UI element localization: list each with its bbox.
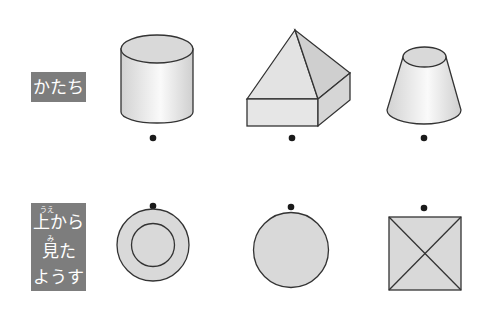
top-view-square-diagonals xyxy=(389,217,461,290)
top-view-dot-1 xyxy=(150,203,157,210)
top-view-concentric-circles xyxy=(117,209,189,281)
top-view-dot-3 xyxy=(421,205,428,212)
cylinder-shape xyxy=(121,35,193,123)
top-view-dot-2 xyxy=(288,204,295,211)
cylinder-viewpoint-dot xyxy=(150,135,157,142)
shapes-figure xyxy=(0,0,491,312)
pyramid-prism-shape xyxy=(247,30,350,126)
cone-viewpoint-dot xyxy=(421,135,428,142)
top-view-circle xyxy=(254,213,329,288)
pyramid-viewpoint-dot xyxy=(289,135,296,142)
truncated-cone-shape xyxy=(387,47,461,124)
